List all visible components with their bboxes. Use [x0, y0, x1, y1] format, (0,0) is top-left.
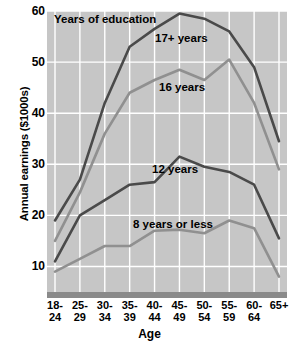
series-annotation-8-years-or-less: 8 years or less: [133, 218, 213, 230]
x-tick-label: 25-29: [72, 300, 88, 323]
x-axis-line: [47, 292, 287, 298]
x-tick-label: 30-34: [97, 300, 113, 323]
y-tick-label: 50: [19, 55, 45, 69]
y-tick-label: 40: [19, 106, 45, 120]
x-axis-tick-labels: 18-2425-2930-3435-3940-4445-4950-5455-59…: [47, 300, 287, 330]
chart-title: Years of education: [54, 13, 156, 25]
plot-area: [47, 11, 287, 292]
series-line-17-years: [55, 14, 279, 221]
series-annotation-16-years: 16 years: [159, 81, 205, 93]
x-tick-label: 35-39: [122, 300, 138, 323]
y-tick-label: 30: [19, 157, 45, 171]
y-tick-label: 20: [19, 208, 45, 222]
series-annotation-17-years: 17+ years: [155, 32, 208, 44]
series-annotation-12-years: 12 years: [152, 163, 198, 175]
y-axis-tick-labels: 102030405060: [0, 0, 45, 343]
x-tick-label: 60-64: [246, 300, 262, 323]
x-tick-label: 18-24: [47, 300, 63, 323]
x-axis-title: Age: [0, 327, 299, 341]
y-tick-label: 60: [19, 4, 45, 18]
x-tick-label: 45-49: [171, 300, 187, 323]
x-tick-label: 55-59: [221, 300, 237, 323]
chart-container: Annual earnings ($1000s) 102030405060 Ye…: [0, 0, 299, 343]
x-tick-label: 50-54: [196, 300, 212, 323]
plot-svg: [47, 11, 287, 292]
x-tick-label: 40-44: [147, 300, 163, 323]
x-tick-label: 65+: [270, 300, 289, 312]
y-tick-label: 10: [19, 259, 45, 273]
